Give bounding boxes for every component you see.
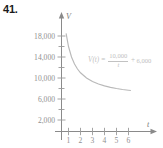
plot-area: 2,000 6,000 10,000 14,000 18,000 1 2 3 4… (0, 0, 163, 148)
x-tick-label-6: 6 (127, 136, 131, 145)
y-tick-label-2000: 2,000 (38, 116, 55, 125)
formula-denominator: t (117, 62, 119, 69)
x-tick-label-1: 1 (67, 136, 71, 145)
x-tick-label-3: 3 (91, 136, 95, 145)
formula-constant: 6,000 (136, 58, 151, 65)
formula-numerator: 10,000 (108, 53, 128, 60)
t-axis-arrow-icon (151, 129, 158, 134)
formula-fraction: 10,000 t (108, 53, 128, 68)
t-axis-label: t (147, 120, 150, 129)
y-tick-label-6000: 6,000 (38, 95, 55, 104)
x-tick-label-5: 5 (115, 136, 119, 145)
v-axis-arrow-icon (59, 12, 64, 19)
x-tick-label-4: 4 (103, 136, 107, 145)
figure-container: 41. 2,000 6,000 10,000 14,000 18,000 1 (0, 0, 163, 148)
y-tick-label-10000: 10,000 (34, 74, 55, 83)
y-tick-label-18000: 18,000 (34, 32, 55, 41)
formula-annotation: V(t) = 10,000 t + 6,000 (88, 50, 162, 72)
v-axis-label: V (66, 12, 72, 21)
formula-function-name: V(t) (88, 57, 99, 64)
x-tick-label-2: 2 (79, 136, 83, 145)
formula-plus-sign: + (131, 57, 135, 64)
y-tick-label-14000: 14,000 (34, 53, 55, 62)
formula-equals-sign: = (101, 57, 105, 64)
